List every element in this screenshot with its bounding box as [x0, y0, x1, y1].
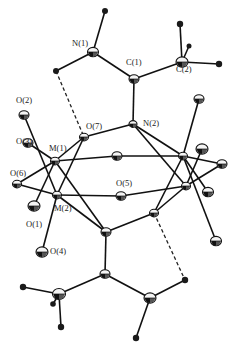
molecular-structure-diagram: N(1)C(1)C(2)O(2)O(7)N(2)O(3)M(1)O(6)O(5)…	[0, 0, 235, 348]
bond	[17, 184, 57, 195]
bond	[133, 79, 134, 124]
atom-c1	[129, 75, 139, 84]
bond	[183, 156, 216, 241]
atom-m2	[53, 191, 62, 199]
bond-layer	[17, 11, 222, 338]
atom-hb3	[50, 301, 56, 307]
atom-label-m2: M(2)	[54, 203, 72, 213]
atom-n1	[88, 47, 99, 56]
bond	[93, 11, 105, 52]
atom-otr	[194, 95, 204, 104]
bond	[59, 274, 105, 294]
atom-cb3	[144, 293, 156, 303]
atom-label-o5: O(5)	[116, 178, 132, 188]
atom-label-o3: O(3)	[16, 136, 32, 146]
bond	[133, 124, 186, 186]
atom-n2	[129, 121, 137, 128]
atom-or2	[217, 160, 227, 169]
atom-m4	[182, 182, 191, 190]
atom-h2c	[187, 44, 192, 49]
hydrogen-bond-layer	[56, 71, 185, 280]
bond	[105, 274, 150, 298]
bond	[133, 124, 183, 156]
bond	[106, 213, 154, 232]
atom-label-o4: O(4)	[50, 246, 66, 256]
atom-label-o6: O(6)	[10, 168, 26, 178]
atom-hb1	[20, 284, 26, 290]
atom-label-o7: O(7)	[86, 121, 102, 131]
hydrogen-bond	[56, 71, 84, 137]
hydrogen-bond	[154, 213, 185, 280]
bond	[56, 52, 93, 71]
atom-o6	[13, 180, 22, 188]
atom-h1a	[102, 8, 108, 14]
atom-h2b	[216, 61, 222, 67]
atom-or3	[203, 187, 214, 196]
atom-nb	[150, 209, 159, 217]
bond	[55, 161, 106, 232]
bond	[57, 195, 121, 196]
atom-o1	[28, 201, 40, 211]
atom-label-c2: C(2)	[176, 64, 192, 74]
atom-label-n1: N(1)	[72, 38, 88, 48]
bond	[136, 298, 150, 338]
atom-o2	[19, 111, 29, 120]
atom-label-c1: C(1)	[126, 57, 142, 67]
bond	[57, 195, 106, 232]
bond	[55, 156, 117, 161]
atom-m1	[51, 157, 60, 165]
atom-o5	[116, 192, 126, 201]
atom-h2a	[177, 21, 183, 27]
bond	[183, 156, 222, 164]
atom-hb2	[58, 324, 64, 330]
atom-or1	[196, 144, 208, 154]
atom-hb5	[133, 335, 139, 341]
atom-o7	[80, 133, 89, 141]
atom-label-o2: O(2)	[16, 95, 32, 105]
atom-label-o1: O(1)	[26, 219, 42, 229]
atom-cb2	[53, 288, 66, 299]
atom-o4	[36, 247, 48, 257]
atom-ob2	[101, 228, 111, 237]
atom-label-m1: M(1)	[49, 143, 67, 153]
bond	[24, 115, 57, 195]
atom-h1b	[53, 68, 59, 74]
atom-cb1	[100, 270, 110, 279]
atom-ob	[112, 152, 122, 161]
bond	[105, 232, 106, 274]
ortep-structure: N(1)C(1)C(2)O(2)O(7)N(2)O(3)M(1)O(6)O(5)…	[0, 0, 235, 348]
atom-label-n2: N(2)	[143, 118, 159, 128]
atom-m3	[179, 152, 188, 160]
atom-hb4	[182, 277, 188, 283]
bond	[180, 24, 182, 62]
atom-or4	[211, 236, 222, 245]
